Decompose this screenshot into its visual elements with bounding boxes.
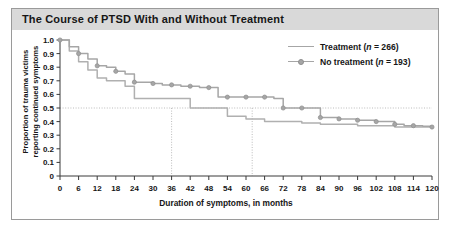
x-tick-label-66: 66 (260, 184, 269, 193)
x-tick-label-72: 72 (279, 184, 288, 193)
series-marker-1 (356, 118, 360, 122)
x-tick-label-24: 24 (130, 184, 139, 193)
series-marker-1 (411, 124, 415, 128)
series-marker-1 (132, 80, 136, 84)
y-tick-label-0.5: 0.5 (43, 104, 55, 113)
x-tick-label-120: 120 (425, 184, 439, 193)
series-marker-1 (281, 106, 285, 110)
series-marker-1 (300, 106, 304, 110)
page-title: The Course of PTSD With and Without Trea… (22, 13, 284, 25)
series-marker-1 (318, 115, 322, 119)
legend-item-treatment: Treatment (n = 266) (288, 40, 411, 53)
legend-label-treatment: Treatment (n = 266) (320, 42, 399, 52)
y-tick-label-0.9: 0.9 (43, 50, 55, 59)
x-tick-label-102: 102 (370, 184, 384, 193)
x-tick-label-18: 18 (111, 184, 120, 193)
chart-legend: Treatment (n = 266) No treatment (n = 19… (288, 40, 411, 70)
series-marker-1 (263, 95, 267, 99)
series-marker-1 (95, 64, 99, 68)
figure-panel: The Course of PTSD With and Without Trea… (11, 8, 439, 220)
x-tick-label-90: 90 (335, 184, 344, 193)
y-tick-label-0.7: 0.7 (43, 77, 55, 86)
series-marker-1 (207, 86, 211, 90)
y-tick-label-0.3: 0.3 (43, 131, 55, 140)
legend-line-circle-icon (288, 57, 314, 67)
y-tick-label-1.0: 1.0 (43, 36, 55, 45)
series-marker-1 (151, 81, 155, 85)
series-marker-1 (188, 84, 192, 88)
series-marker-1 (430, 125, 434, 129)
x-tick-label-54: 54 (223, 184, 232, 193)
series-marker-1 (225, 95, 229, 99)
x-tick-label-42: 42 (186, 184, 195, 193)
y-tick-label-0: 0 (50, 172, 55, 181)
title-bar: The Course of PTSD With and Without Trea… (12, 9, 438, 30)
series-marker-1 (374, 120, 378, 124)
series-marker-1 (114, 69, 118, 73)
y-tick-label-0.6: 0.6 (43, 90, 55, 99)
x-tick-label-114: 114 (407, 184, 420, 193)
x-tick-label-48: 48 (204, 184, 213, 193)
series-marker-1 (58, 38, 62, 42)
series-marker-1 (170, 83, 174, 87)
legend-label-no-treatment: No treatment (n = 193) (320, 57, 411, 67)
y-tick-label-0.4: 0.4 (43, 118, 55, 127)
x-tick-label-12: 12 (93, 184, 102, 193)
x-tick-label-6: 6 (76, 184, 81, 193)
x-tick-label-60: 60 (242, 184, 251, 193)
y-tick-label-0.8: 0.8 (43, 63, 55, 72)
series-marker-1 (244, 95, 248, 99)
legend-item-no-treatment: No treatment (n = 193) (288, 55, 411, 68)
x-tick-label-78: 78 (297, 184, 306, 193)
series-marker-1 (77, 52, 81, 56)
y-tick-label-0.1: 0.1 (43, 158, 55, 167)
x-tick-label-84: 84 (316, 184, 325, 193)
y-tick-label-0.2: 0.2 (43, 145, 55, 154)
series-marker-1 (393, 122, 397, 126)
plot-area: Proportion of trauma victims reporting c… (12, 30, 440, 220)
x-tick-label-0: 0 (58, 184, 63, 193)
x-tick-label-36: 36 (167, 184, 176, 193)
legend-line-icon (288, 42, 314, 52)
x-tick-label-30: 30 (149, 184, 158, 193)
series-marker-1 (337, 117, 341, 121)
x-tick-label-96: 96 (353, 184, 362, 193)
x-tick-label-108: 108 (388, 184, 402, 193)
